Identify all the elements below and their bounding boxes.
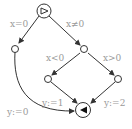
label-x-gt-0: x>0 (103, 53, 122, 63)
start-node (37, 4, 51, 18)
state-node-lower-left (45, 76, 52, 83)
flow-diagram: x=0 x≠0 x<0 x>0 y:=0 y:=1 y:=2 (0, 0, 132, 129)
label-x-lt-0: x<0 (46, 53, 65, 63)
state-node-lower-right (115, 76, 122, 83)
end-node (76, 103, 91, 118)
label-y-assign-1: y:=1 (41, 98, 63, 108)
label-x-ne-0: x≠0 (66, 19, 85, 29)
label-y-assign-0: y:=0 (6, 107, 29, 117)
state-node-mid (81, 46, 88, 53)
label-x-eq-0: x=0 (10, 19, 29, 29)
label-y-assign-2: y:=2 (103, 98, 125, 108)
state-node-left (12, 46, 19, 53)
